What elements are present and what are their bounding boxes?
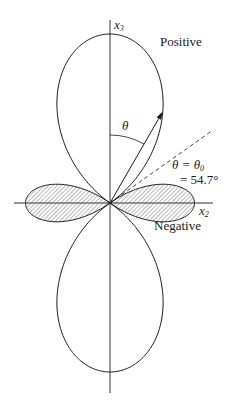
positive-label: Positive (160, 34, 202, 50)
theta-eq-text: θ = θ (172, 157, 200, 172)
x2-axis-label: x2 (199, 203, 209, 219)
x3-axis-label: x3 (114, 17, 124, 33)
magic-angle-annotation-line1: θ = θ0 (172, 157, 204, 173)
legendre-polar-diagram (0, 0, 228, 414)
negative-label: Negative (154, 218, 201, 234)
x2-label-sub: 2 (205, 210, 209, 219)
x3-label-sub: 3 (120, 24, 124, 33)
magic-angle-annotation-line2: = 54.7° (180, 172, 219, 188)
theta-arc (110, 135, 144, 144)
theta-label: θ (122, 118, 128, 134)
